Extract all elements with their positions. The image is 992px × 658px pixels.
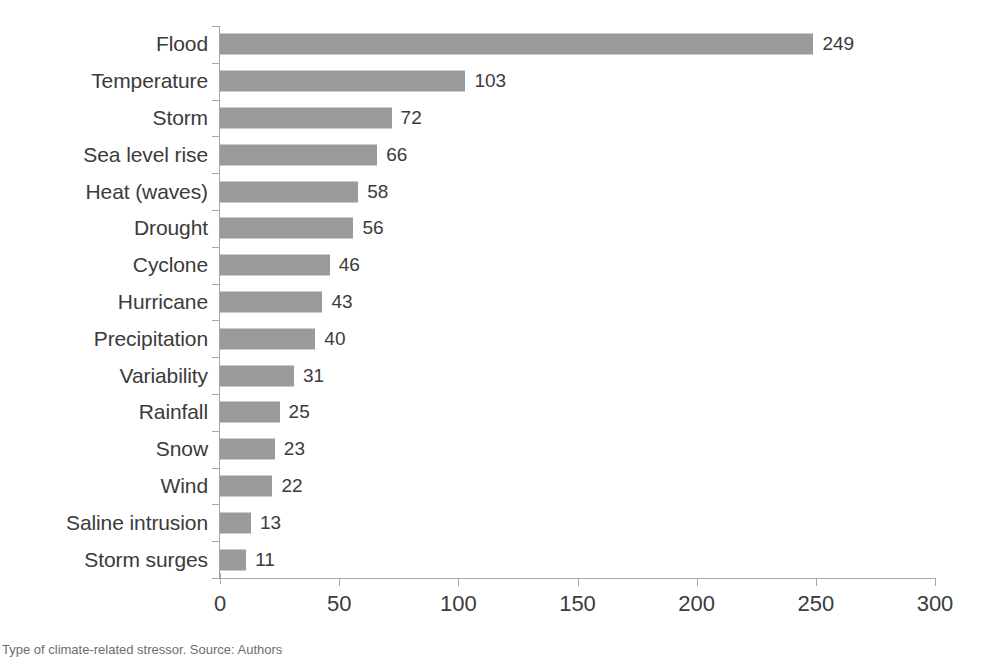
category-label: Variability [0,364,208,388]
x-axis-tick [220,573,221,584]
category-label: Snow [0,437,208,461]
y-axis-tick [212,541,220,542]
y-axis-tick [212,26,220,27]
bar-chart: Flood249Temperature103Storm72Sea level r… [0,0,992,658]
bar-value-label: 58 [367,181,388,203]
chart-row: Storm72 [0,100,992,137]
bar [220,512,251,533]
bar-value-label: 103 [474,70,506,92]
category-label: Heat (waves) [0,180,208,204]
category-label: Wind [0,474,208,498]
bar [220,144,377,165]
bar [220,71,465,92]
y-axis-tick [212,578,220,579]
y-axis-tick [212,320,220,321]
bar-value-label: 40 [324,328,345,350]
bar [220,218,353,239]
bar [220,34,813,55]
category-label: Hurricane [0,290,208,314]
y-axis-tick [212,468,220,469]
x-axis-tick-label: 50 [327,590,351,618]
chart-row: Sea level rise66 [0,136,992,173]
bar [220,549,246,570]
chart-row: Cyclone46 [0,247,992,284]
category-label: Rainfall [0,400,208,424]
x-axis-tick [816,578,817,586]
x-axis-tick-label: 100 [440,590,477,618]
chart-rows: Flood249Temperature103Storm72Sea level r… [0,26,992,578]
bar [220,291,322,312]
x-axis-tick-label: 150 [559,590,596,618]
bar-value-label: 11 [255,549,275,571]
category-label: Flood [0,32,208,56]
chart-row: Heat (waves)58 [0,173,992,210]
chart-row: Snow23 [0,431,992,468]
category-label: Saline intrusion [0,511,208,535]
chart-row: Storm surges11 [0,541,992,578]
y-axis-tick [212,247,220,248]
chart-row: Saline intrusion13 [0,504,992,541]
chart-row: Hurricane43 [0,284,992,321]
y-axis-tick [212,431,220,432]
x-axis-tick-labels: 050100150200250300 [0,590,992,624]
x-axis-tick-label: 300 [917,590,954,618]
x-axis-tick-label: 200 [678,590,715,618]
category-label: Drought [0,216,208,240]
y-axis-tick [212,394,220,395]
chart-row: Variability31 [0,357,992,394]
y-axis-tick [212,63,220,64]
chart-row: Drought56 [0,210,992,247]
bar-value-label: 249 [822,33,854,55]
bar-value-label: 43 [331,291,352,313]
x-axis-tick-label: 250 [797,590,834,618]
bar [220,181,358,202]
y-axis-tick [212,136,220,137]
bar-value-label: 46 [339,254,360,276]
y-axis-tick [212,173,220,174]
chart-caption: Type of climate-related stressor. Source… [2,642,282,658]
category-label: Cyclone [0,253,208,277]
category-label: Temperature [0,69,208,93]
category-label: Sea level rise [0,143,208,167]
bar-value-label: 23 [284,438,305,460]
x-axis-tick [935,578,936,586]
y-axis-tick [212,504,220,505]
bar-value-label: 22 [281,475,302,497]
bar [220,328,315,349]
bar-value-label: 31 [303,365,324,387]
y-axis-tick [212,357,220,358]
chart-row: Rainfall25 [0,394,992,431]
bar-value-label: 56 [362,217,383,239]
chart-row: Temperature103 [0,63,992,100]
y-axis-tick [212,100,220,101]
bar [220,439,275,460]
y-axis-tick [212,210,220,211]
y-axis-tick [212,284,220,285]
bar-value-label: 66 [386,144,407,166]
bar [220,475,272,496]
x-axis-tick [458,578,459,586]
chart-row: Flood249 [0,26,992,63]
chart-row: Wind22 [0,468,992,505]
bar [220,402,280,423]
x-axis-tick [339,578,340,586]
chart-row: Precipitation40 [0,320,992,357]
category-label: Storm [0,106,208,130]
x-axis-tick [697,578,698,586]
x-axis-tick-label: 0 [214,590,226,618]
x-axis-ticks [0,578,992,588]
bar [220,365,294,386]
bar-value-label: 72 [401,107,422,129]
category-label: Storm surges [0,548,208,572]
bar-value-label: 13 [260,512,281,534]
bar [220,255,330,276]
bar [220,107,392,128]
x-axis-tick [578,578,579,586]
bar-value-label: 25 [289,401,310,423]
category-label: Precipitation [0,327,208,351]
